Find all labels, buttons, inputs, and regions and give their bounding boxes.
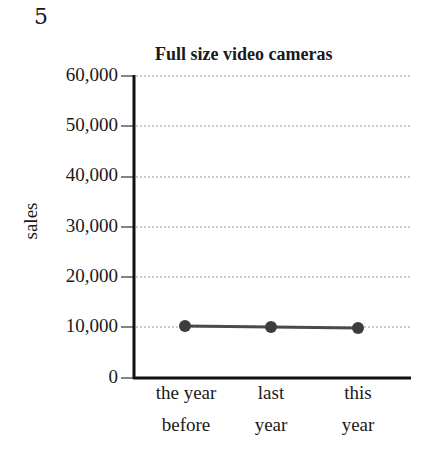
x-category-this-year: this year <box>308 377 408 441</box>
gridlines <box>136 76 411 327</box>
x-category-last-year: last year <box>221 377 321 441</box>
data-point-the-year-before <box>179 320 191 332</box>
data-point-this-year <box>352 322 364 334</box>
data-point-last-year <box>265 321 277 333</box>
y-ticks <box>121 76 134 378</box>
